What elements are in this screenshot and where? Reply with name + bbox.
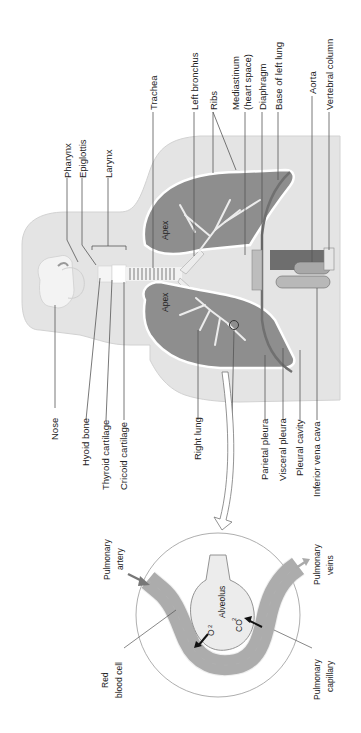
label-diaphragm: Diaphragm [257,63,268,110]
label-mediastinum-sub: (heart space) [242,54,253,110]
label-larynx: Larynx [103,149,114,178]
label-aorta: Aorta [307,71,318,94]
label-pulmonary-veins-2: veins [325,555,335,575]
label-pulmonary-artery-1: Pulmonary [102,539,112,580]
label-trachea: Trachea [148,75,159,110]
label-mediastinum: Mediastinum [230,56,241,110]
label-cricoid-cartilage: Cricoid cartilage [118,422,129,490]
label-pulmonary-artery-2: artery [115,548,125,570]
label-alveolus: Alveolus [217,586,227,618]
label-apex-right: Apex [160,292,170,312]
label-hyoid-bone: Hyoid bone [80,418,91,466]
label-o2: O [206,629,216,636]
label-left-bronchus: Left bronchus [189,52,200,110]
label-pulmonary-capillary-2: capillary [325,660,335,692]
labels-bottom: Nose Hyoid bone Thyroid cartilage Cricoi… [49,417,322,497]
label-ribs: Ribs [208,91,219,110]
label-apex-left: Apex [160,220,170,240]
label-pharynx: Pharynx [62,143,73,178]
label-right-lung: Right lung [192,417,203,460]
label-pleural-cavity: Pleural cavity [294,419,305,476]
label-inferior-vena-cava: Inferior vena cava [311,421,322,497]
label-thyroid-cartilage: Thyroid cartilage [100,420,111,490]
label-pulmonary-veins-1: Pulmonary [312,544,322,585]
label-epiglottis: Epiglottis [77,139,88,178]
respiratory-diagram: Pharynx Epiglottis Larynx Trachea Left b… [0,0,361,733]
label-pulmonary-capillary-1: Pulmonary [312,659,322,700]
label-parietal-pleura: Parietal pleura [259,418,270,480]
label-visceral-pleura: Visceral pleura [277,418,288,481]
label-red-blood-cell-1: Red [100,672,110,688]
label-vertebral-column: Vertebral column [324,39,335,110]
label-base-left-lung: Base of left lung [273,42,284,110]
vessels [270,248,334,288]
label-nose: Nose [49,418,60,440]
label-red-blood-cell-2: blood cell [114,662,124,698]
